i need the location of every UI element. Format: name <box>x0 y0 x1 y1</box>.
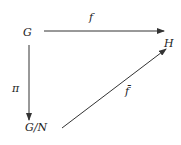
label-f: f <box>89 12 93 23</box>
node-G: G <box>23 27 32 38</box>
node-G-quotient-N: G/N <box>25 122 47 133</box>
node-H: H <box>164 38 174 49</box>
label-pi: π <box>12 83 19 94</box>
arrow-fbar <box>62 49 166 128</box>
label-fbar: f̄ <box>125 86 129 97</box>
